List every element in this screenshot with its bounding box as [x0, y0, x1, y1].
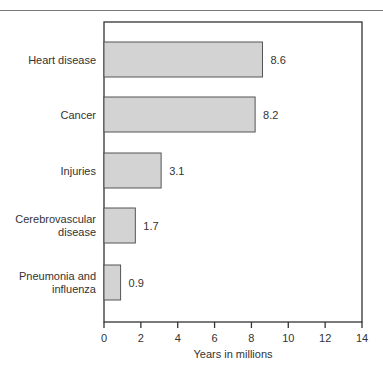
bar [104, 153, 161, 188]
bar-value-label: 3.1 [169, 165, 184, 177]
x-tick-label: 14 [356, 332, 368, 344]
category-labels: Heart diseaseCancerInjuriesCerebrovascul… [15, 54, 97, 296]
x-tick-label: 2 [138, 332, 144, 344]
bar-value-label: 8.6 [270, 54, 285, 66]
bar-value-label: 8.2 [263, 109, 278, 121]
category-label: Cancer [61, 109, 97, 121]
bar [104, 265, 121, 300]
x-tick-label: 6 [212, 332, 218, 344]
x-tick-label: 8 [248, 332, 254, 344]
category-label: Injuries [61, 165, 97, 177]
x-tick-label: 10 [282, 332, 294, 344]
x-tick-label: 0 [101, 332, 107, 344]
bar-value-label: 1.7 [143, 220, 158, 232]
x-axis: 02468101214 [101, 322, 368, 344]
category-label: Heart disease [28, 54, 96, 66]
x-tick-label: 12 [319, 332, 331, 344]
bar [104, 208, 135, 243]
x-axis-label: Years in millions [193, 348, 273, 360]
bar [104, 97, 255, 132]
x-tick-label: 4 [175, 332, 181, 344]
bar-value-label: 0.9 [129, 277, 144, 289]
category-label: Cerebrovasculardisease [15, 213, 96, 238]
bar [104, 42, 262, 77]
bar-chart: 8.68.23.11.70.9 Heart diseaseCancerInjur… [0, 0, 383, 371]
bars: 8.68.23.11.70.9 [104, 42, 286, 300]
category-label: Pneumonia andinfluenza [19, 270, 97, 295]
